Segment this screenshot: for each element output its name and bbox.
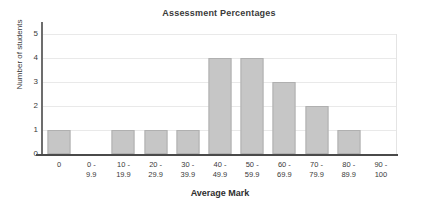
x-tick-label-line: 79.9 <box>300 170 332 180</box>
bars-layer <box>43 34 397 154</box>
bar[interactable] <box>144 130 167 154</box>
x-tick-label: 60 -69.9 <box>268 160 300 179</box>
bar[interactable] <box>209 58 232 154</box>
bar-slot <box>268 34 300 154</box>
x-tick-label-line: 0 <box>43 160 75 170</box>
y-tick-label: 5 <box>24 30 38 38</box>
x-tick-label-line: 90 - <box>365 160 397 170</box>
x-tick-label: 0 -9.9 <box>75 160 107 179</box>
x-tick-label: 20 -29.9 <box>140 160 172 179</box>
bar[interactable] <box>241 58 264 154</box>
y-axis-tick-labels: 543210 <box>20 34 38 154</box>
x-tick-label-line: 0 - <box>75 160 107 170</box>
x-tick-label: 80 -89.9 <box>333 160 365 179</box>
x-tick-label-line: 29.9 <box>140 170 172 180</box>
y-tick-label: 1 <box>24 126 38 134</box>
bar-slot <box>204 34 236 154</box>
bar-slot <box>333 34 365 154</box>
x-tick-label-line: 19.9 <box>107 170 139 180</box>
x-tick-label-line: 80 - <box>333 160 365 170</box>
y-axis-line <box>41 22 43 154</box>
x-tick-label: 70 -79.9 <box>300 160 332 179</box>
x-axis-line <box>36 154 398 156</box>
y-tick-label: 2 <box>24 102 38 110</box>
x-tick-label: 30 -39.9 <box>172 160 204 179</box>
x-tick-label-line: 69.9 <box>268 170 300 180</box>
x-tick-label: 10 -19.9 <box>107 160 139 179</box>
bar-slot <box>236 34 268 154</box>
x-tick-label-line: 50 - <box>236 160 268 170</box>
bar-slot <box>75 34 107 154</box>
bar[interactable] <box>112 130 135 154</box>
x-axis-title: Average Mark <box>43 188 397 198</box>
x-tick-label-line: 70 - <box>300 160 332 170</box>
bar-slot <box>172 34 204 154</box>
y-tick-label: 4 <box>24 54 38 62</box>
x-tick-label-line: 49.9 <box>204 170 236 180</box>
bar-slot <box>300 34 332 154</box>
x-tick-label-line: 100 <box>365 170 397 180</box>
bar[interactable] <box>176 130 199 154</box>
x-axis-tick-labels: 00 -9.910 -19.920 -29.930 -39.940 -49.95… <box>43 160 397 184</box>
bar-slot <box>43 34 75 154</box>
bar[interactable] <box>48 130 71 154</box>
histogram-chart: Assessment Percentages Number of student… <box>0 0 428 215</box>
bar[interactable] <box>305 106 328 154</box>
chart-title: Assessment Percentages <box>0 8 428 18</box>
bar-slot <box>365 34 397 154</box>
x-tick-label: 40 -49.9 <box>204 160 236 179</box>
bar-slot <box>107 34 139 154</box>
x-tick-label-line: 20 - <box>140 160 172 170</box>
x-tick-label-line: 89.9 <box>333 170 365 180</box>
x-tick-label: 90 -100 <box>365 160 397 179</box>
bar-slot <box>140 34 172 154</box>
x-tick-label-line: 9.9 <box>75 170 107 180</box>
bar[interactable] <box>273 82 296 154</box>
x-tick-label-line: 60 - <box>268 160 300 170</box>
x-tick-label-line: 39.9 <box>172 170 204 180</box>
x-tick-label-line: 40 - <box>204 160 236 170</box>
y-tick-label: 3 <box>24 78 38 86</box>
x-tick-label-line: 59.9 <box>236 170 268 180</box>
x-tick-label-line: 10 - <box>107 160 139 170</box>
x-tick-label-line: 30 - <box>172 160 204 170</box>
x-tick-label: 0 <box>43 160 75 170</box>
x-tick-label: 50 -59.9 <box>236 160 268 179</box>
bar[interactable] <box>337 130 360 154</box>
